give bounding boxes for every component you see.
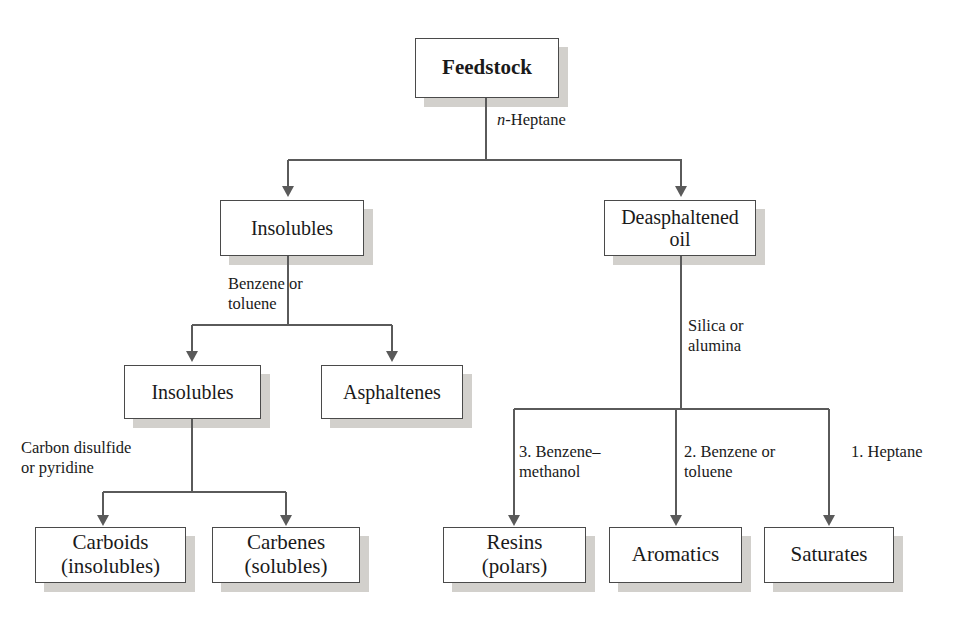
connector-insolubles2-stem <box>191 419 193 492</box>
connector-split-4-bar <box>514 408 829 410</box>
connector-drop-to-asphaltenes <box>391 325 393 353</box>
node-label-carboids: Carboids (insolubles) <box>57 531 164 578</box>
node-label-carbenes: Carbenes (solubles) <box>241 531 332 578</box>
node-label-asphaltenes: Asphaltenes <box>339 381 445 403</box>
node-label-insolubles1: Insolubles <box>247 217 337 239</box>
connector-drop-to-resins <box>513 409 515 517</box>
connector-drop-to-insolubles1 <box>287 160 289 188</box>
connector-drop-to-carboids <box>102 492 104 517</box>
node-carboids[interactable]: Carboids (insolubles) <box>35 527 186 583</box>
arrow-insolubles2 <box>186 351 198 362</box>
diagram-canvas: FeedstockInsolublesDeasphaltened oilInso… <box>0 0 966 621</box>
node-label-feedstock: Feedstock <box>438 56 536 80</box>
edge-label-silica_alumina: Silica or alumina <box>688 316 743 356</box>
connector-split-2-bar <box>192 324 392 326</box>
connector-drop-to-deasph <box>680 160 682 188</box>
edge-label-branch_1: 1. Heptane <box>851 442 922 462</box>
node-label-resins: Resins (polars) <box>478 531 551 578</box>
edge-label-branch_3: 3. Benzene– methanol <box>519 442 601 482</box>
node-insolubles2[interactable]: Insolubles <box>124 365 261 419</box>
node-asphaltenes[interactable]: Asphaltenes <box>321 365 463 419</box>
edge-label-branch_2: 2. Benzene or toluene <box>684 442 775 482</box>
node-resins[interactable]: Resins (polars) <box>443 527 586 583</box>
connector-feedstock-stem <box>485 98 487 160</box>
connector-split-3-bar <box>103 491 286 493</box>
connector-drop-to-carbenes <box>285 492 287 517</box>
arrow-carbenes <box>280 515 292 526</box>
connector-drop-to-aromatics <box>675 409 677 517</box>
connector-drop-to-saturates <box>828 409 830 517</box>
connector-split-1-bar <box>288 159 682 161</box>
connector-drop-to-insolubles2 <box>191 325 193 353</box>
node-label-deasph_oil: Deasphaltened oil <box>617 206 743 251</box>
arrow-aromatics <box>670 515 682 526</box>
node-feedstock[interactable]: Feedstock <box>415 38 559 98</box>
edge-label-carbon_disulf: Carbon disulfide or pyridine <box>21 438 131 478</box>
italic-prefix: n <box>497 110 505 129</box>
node-label-saturates: Saturates <box>787 543 872 567</box>
arrow-resins <box>508 515 520 526</box>
node-carbenes[interactable]: Carbenes (solubles) <box>212 527 360 583</box>
node-label-insolubles2: Insolubles <box>147 381 237 403</box>
node-saturates[interactable]: Saturates <box>764 527 894 583</box>
node-label-aromatics: Aromatics <box>628 543 723 567</box>
node-deasph_oil[interactable]: Deasphaltened oil <box>604 200 756 256</box>
arrow-carboids <box>97 515 109 526</box>
arrow-saturates <box>823 515 835 526</box>
node-insolubles1[interactable]: Insolubles <box>220 200 364 256</box>
edge-label-heptane: n-Heptane <box>497 110 566 130</box>
connector-deasph-stem <box>680 256 682 409</box>
node-aromatics[interactable]: Aromatics <box>609 527 742 583</box>
arrow-asphaltenes <box>386 351 398 362</box>
edge-label-benzene_tol_1: Benzene or toluene <box>228 274 303 314</box>
arrow-deasph <box>675 186 687 197</box>
arrow-insolubles1 <box>282 186 294 197</box>
